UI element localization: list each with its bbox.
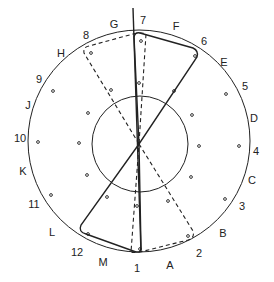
dot-marker [86, 174, 89, 177]
rotation-diagram: G7F6E5D4C3B2A1M12L11K10J9H8 [0, 0, 274, 282]
dot-marker [190, 176, 193, 179]
perimeter-label: 5 [242, 80, 248, 92]
dot-marker [37, 141, 40, 144]
perimeter-label: M [98, 256, 107, 268]
perimeter-label: E [220, 56, 227, 68]
dot-marker [140, 40, 143, 43]
perimeter-label: G [110, 18, 119, 30]
perimeter-label: F [173, 20, 180, 32]
perimeter-label: 12 [71, 246, 83, 258]
dot-marker [52, 90, 55, 93]
dot-marker [139, 248, 142, 251]
perimeter-label: C [248, 174, 256, 186]
perimeter-label: 9 [36, 73, 42, 85]
dot-marker [87, 112, 90, 115]
dot-marker [78, 142, 81, 145]
perimeter-label: B [219, 227, 226, 239]
perimeter-label: 3 [239, 200, 245, 212]
solid-vertical-axis [133, 8, 141, 252]
perimeter-label: K [19, 165, 27, 177]
diagram-canvas: G7F6E5D4C3B2A1M12L11K10J9H8 [0, 0, 274, 282]
perimeter-labels: G7F6E5D4C3B2A1M12L11K10J9H8 [14, 14, 259, 274]
dot-marker [198, 145, 201, 148]
perimeter-label: 6 [201, 35, 207, 47]
dot-marker [50, 194, 53, 197]
solid-upper-sector [134, 33, 198, 144]
perimeter-label: 4 [253, 145, 259, 157]
perimeter-label: 8 [83, 29, 89, 41]
perimeter-label: 2 [196, 247, 202, 259]
perimeter-label: 10 [14, 132, 26, 144]
perimeter-label: A [166, 259, 174, 271]
dot-marker [110, 89, 113, 92]
dot-marker [194, 55, 197, 58]
perimeter-label: H [57, 47, 65, 59]
perimeter-label: 7 [140, 14, 146, 26]
solid-lower-sector [80, 144, 141, 252]
perimeter-label: D [250, 112, 258, 124]
dot-marker [136, 205, 139, 208]
dot-marker [90, 52, 93, 55]
perimeter-label: 1 [134, 262, 140, 274]
dot-marker [187, 235, 190, 238]
dot-marker [191, 114, 194, 117]
dot-marker [224, 198, 227, 201]
perimeter-label: J [25, 99, 31, 111]
dot-marker [225, 93, 228, 96]
dot-marker [106, 196, 109, 199]
perimeter-label: 11 [28, 198, 39, 210]
perimeter-label: L [49, 226, 55, 238]
dot-marker [238, 145, 241, 148]
dot-marker [167, 200, 170, 203]
dot-marker [138, 82, 141, 85]
